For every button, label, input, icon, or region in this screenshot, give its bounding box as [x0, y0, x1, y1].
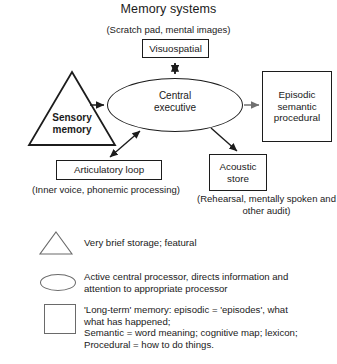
legend-ellipse-line2: attention to appropriate processor: [84, 283, 227, 294]
legend-square-line1: 'Long-term' memory: episodic = 'episodes…: [84, 304, 288, 315]
arrow-central-executive-articulatory-loop: [110, 131, 140, 157]
legend-square-icon: [44, 304, 76, 334]
legend-square-line4: Procedural = how to do things.: [84, 339, 214, 350]
legend-ellipse-text: Active central processor, directs inform…: [84, 271, 332, 294]
legend-ellipse-line1: Active central processor, directs inform…: [84, 271, 288, 282]
legend-square-line2: what has happened;: [84, 316, 170, 327]
legend-square-text: 'Long-term' memory: episodic = 'episodes…: [84, 304, 334, 350]
caption-inner-voice: (Inner voice, phonemic processing): [8, 184, 204, 195]
legend-triangle-text: Very brief storage; featural: [84, 237, 334, 249]
legend-triangle-icon: [38, 230, 74, 256]
legend-square-line3: Semantic = word meaning; cognitive map; …: [84, 327, 298, 338]
arrow-central-executive-to-acoustic-store: [211, 128, 237, 151]
legend-ellipse-icon: [40, 274, 76, 291]
memory-systems-diagram: Memory systems (Scratch pad, mental imag…: [0, 0, 337, 364]
caption-rehearsal: (Rehearsal, mentally spoken and other au…: [196, 193, 337, 216]
